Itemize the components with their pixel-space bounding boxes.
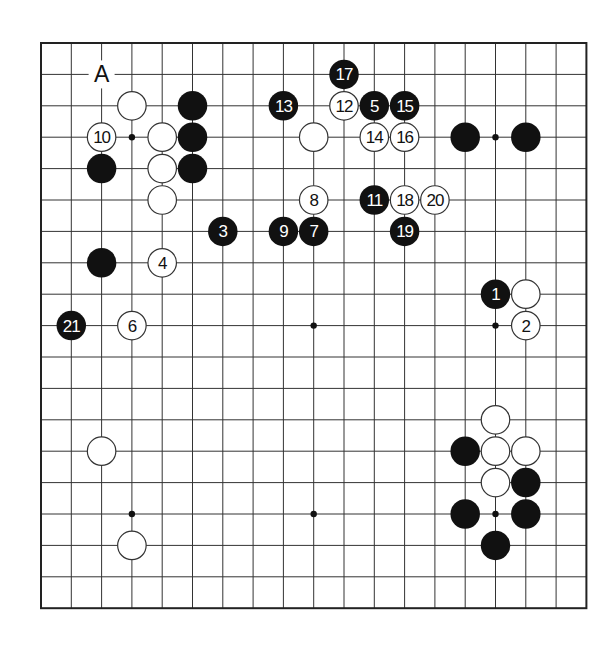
- black-stone: 9: [269, 217, 299, 247]
- black-stone: [178, 154, 208, 184]
- white-stone: 8: [299, 186, 328, 215]
- black-stone: [450, 499, 480, 529]
- white-stone: 12: [330, 92, 359, 121]
- black-stone: 15: [390, 91, 420, 121]
- star-point: [492, 511, 498, 517]
- black-stone: 13: [269, 91, 299, 121]
- white-stone: 16: [390, 123, 419, 152]
- move-number: 15: [396, 97, 413, 116]
- black-stone: [87, 248, 117, 278]
- black-stone: 11: [360, 185, 390, 215]
- white-stone: [118, 92, 147, 121]
- move-number: 1: [491, 285, 500, 304]
- black-stone: [450, 122, 480, 152]
- move-number: 6: [128, 317, 137, 336]
- move-number: 12: [336, 97, 353, 116]
- black-stone: 17: [329, 60, 359, 90]
- white-stone: [148, 123, 177, 152]
- black-stone: 3: [208, 217, 238, 247]
- move-number: 5: [370, 97, 379, 116]
- black-stone: 19: [390, 217, 420, 247]
- black-stone: 5: [360, 91, 390, 121]
- white-stone: [481, 468, 510, 497]
- black-stone: [511, 468, 541, 498]
- white-stone: 10: [87, 123, 116, 152]
- black-stone: [87, 154, 117, 184]
- white-stone: 18: [390, 186, 419, 215]
- move-number: 19: [396, 222, 413, 241]
- white-stone: 4: [148, 249, 177, 278]
- go-board-diagram: A 123456789101112131415161718192021: [0, 0, 614, 647]
- go-board: A 123456789101112131415161718192021: [0, 0, 614, 647]
- white-stone: [87, 437, 116, 466]
- black-stone: 7: [299, 217, 329, 247]
- stones-layer: 123456789101112131415161718192021: [57, 60, 541, 561]
- move-number: 3: [219, 222, 228, 241]
- move-number: 8: [309, 191, 318, 210]
- white-stone: [481, 437, 510, 466]
- point-label: A: [94, 61, 110, 87]
- star-point: [492, 322, 498, 328]
- black-stone: [178, 122, 208, 152]
- white-stone: [512, 280, 541, 309]
- white-stone: [481, 406, 510, 435]
- star-point: [129, 511, 135, 517]
- move-number: 20: [426, 191, 443, 210]
- move-number: 16: [396, 128, 413, 147]
- white-stone: 20: [421, 186, 450, 215]
- black-stone: [178, 91, 208, 121]
- star-point: [492, 134, 498, 140]
- move-number: 14: [366, 128, 383, 147]
- white-stone: 2: [512, 311, 541, 340]
- black-stone: 1: [481, 279, 511, 309]
- white-stone: [512, 437, 541, 466]
- move-number: 17: [336, 65, 353, 84]
- white-stone: 6: [118, 311, 147, 340]
- move-number: 18: [396, 191, 413, 210]
- black-stone: [511, 499, 541, 529]
- white-stone: [118, 531, 147, 560]
- star-point: [129, 134, 135, 140]
- move-number: 4: [158, 254, 167, 273]
- white-stone: [148, 186, 177, 215]
- board-labels: A: [89, 60, 115, 88]
- move-number: 9: [279, 222, 288, 241]
- black-stone: [511, 122, 541, 152]
- black-stone: [450, 436, 480, 466]
- move-number: 21: [63, 317, 80, 336]
- white-stone: [148, 154, 177, 183]
- white-stone: [299, 123, 328, 152]
- move-number: 11: [366, 191, 382, 210]
- move-number: 7: [309, 222, 318, 241]
- black-stone: [481, 531, 511, 561]
- move-number: 10: [93, 128, 110, 147]
- move-number: 2: [522, 317, 531, 336]
- black-stone: 21: [57, 311, 87, 341]
- white-stone: 14: [360, 123, 389, 152]
- star-point: [311, 511, 317, 517]
- star-point: [311, 322, 317, 328]
- move-number: 13: [275, 97, 292, 116]
